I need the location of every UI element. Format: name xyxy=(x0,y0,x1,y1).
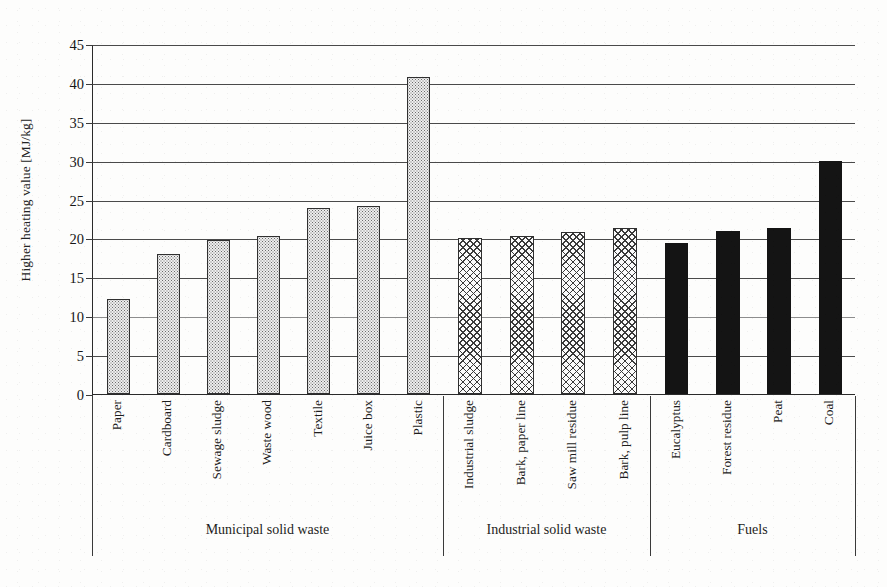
bar-waste-wood xyxy=(257,236,280,394)
bar-industrial-sludge xyxy=(458,238,482,394)
bar-forest-residue xyxy=(716,231,740,394)
y-tick-label-35: 35 xyxy=(70,114,85,131)
y-tick-mark-5 xyxy=(86,356,93,357)
y-tick-mark-35 xyxy=(86,123,93,124)
bar-sewage-sludge xyxy=(207,240,230,394)
y-axis-title-text: Higher heating value [MJ/kg] xyxy=(18,90,34,310)
plot-area: 051015202530354045 xyxy=(92,45,855,395)
y-tick-label-5: 5 xyxy=(77,348,84,365)
y-tick-label-0: 0 xyxy=(77,387,84,404)
bar-coal xyxy=(819,161,843,394)
group-label-fuels: Fuels xyxy=(650,522,855,538)
bar-juice-box xyxy=(357,206,380,394)
bar-plastic xyxy=(407,77,430,394)
group-label-industrial-solid-waste: Industrial solid waste xyxy=(443,522,650,538)
y-tick-mark-25 xyxy=(86,201,93,202)
bar-peat xyxy=(767,228,791,394)
y-tick-label-45: 45 xyxy=(70,37,85,54)
bar-series xyxy=(93,45,855,394)
bar-cardboard xyxy=(157,254,180,394)
y-tick-label-30: 30 xyxy=(70,153,85,170)
y-tick-mark-20 xyxy=(86,239,93,240)
y-tick-mark-15 xyxy=(86,278,93,279)
y-tick-label-10: 10 xyxy=(70,309,85,326)
bar-bark-paper-line xyxy=(510,236,534,394)
bar-textile xyxy=(307,208,330,394)
group-label-municipal-solid-waste: Municipal solid waste xyxy=(92,522,443,538)
group-label-band: Municipal solid wasteIndustrial solid wa… xyxy=(92,396,855,556)
y-axis-title: Higher heating value [MJ/kg] xyxy=(18,0,38,90)
y-tick-label-40: 40 xyxy=(70,75,85,92)
chart-figure: Higher heating value [MJ/kg] 05101520253… xyxy=(0,0,887,587)
y-tick-label-15: 15 xyxy=(70,270,85,287)
y-tick-mark-40 xyxy=(86,84,93,85)
group-band-edge-right xyxy=(855,396,856,556)
y-tick-label-20: 20 xyxy=(70,231,85,248)
y-tick-label-25: 25 xyxy=(70,192,85,209)
y-tick-mark-45 xyxy=(86,45,93,46)
bar-bark-pulp-line xyxy=(613,228,637,394)
bar-paper xyxy=(107,299,130,394)
bar-saw-mill-residue xyxy=(561,232,585,394)
bar-eucalyptus xyxy=(665,243,689,394)
y-tick-mark-30 xyxy=(86,162,93,163)
y-tick-mark-10 xyxy=(86,317,93,318)
